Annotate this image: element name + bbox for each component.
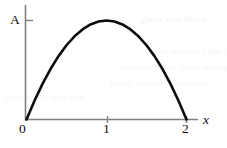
parabola-figure: ghost text bleed faint reverse page text…: [0, 0, 227, 148]
x-tick-label-1: 1: [103, 122, 110, 136]
x-tick-label-2: 2: [182, 122, 189, 136]
x-axis-name-label: x: [203, 113, 209, 127]
plot-canvas: [0, 0, 227, 148]
origin-label: 0: [19, 122, 26, 136]
y-axis-value-label: A: [10, 13, 20, 27]
parabola-curve: [27, 21, 187, 120]
